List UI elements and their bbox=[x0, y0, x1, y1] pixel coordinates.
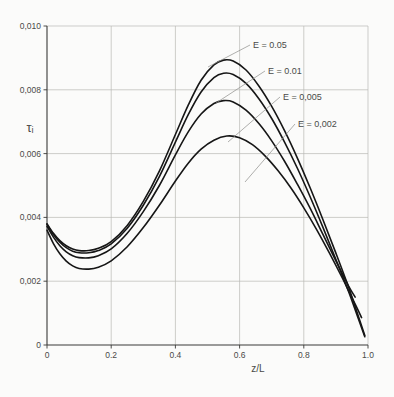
y-tick-label: 0,004 bbox=[20, 212, 42, 222]
axis-tick-labels: 00.20.40.60.81.000,0020,0040,0060,0080,0… bbox=[20, 21, 374, 360]
x-tick-label: 0.8 bbox=[298, 350, 310, 360]
figure-container: E = 0.05E = 0.01E = 0,005E = 0,002 00.20… bbox=[0, 0, 394, 397]
series-label: E = 0.05 bbox=[253, 40, 287, 50]
curve-e-0-005 bbox=[47, 101, 355, 298]
annotation-leader-line bbox=[245, 124, 295, 182]
chart-canvas: E = 0.05E = 0.01E = 0,005E = 0,002 00.20… bbox=[0, 0, 394, 397]
x-tick-label: 0.4 bbox=[169, 350, 181, 360]
plot-frame bbox=[47, 26, 368, 345]
x-tick-label: 0.2 bbox=[105, 350, 117, 360]
curve-e-0-002 bbox=[47, 136, 362, 318]
series-label: E = 0,002 bbox=[298, 119, 337, 129]
y-tick-label: 0,010 bbox=[20, 21, 42, 31]
y-tick-label: 0 bbox=[36, 340, 41, 350]
y-tick-label: 0,008 bbox=[20, 85, 42, 95]
y-axis-label: τᵢ bbox=[26, 120, 33, 135]
x-tick-label: 1.0 bbox=[362, 350, 374, 360]
x-tick-label: 0 bbox=[45, 350, 50, 360]
series-annotations: E = 0.05E = 0.01E = 0,005E = 0,002 bbox=[208, 40, 337, 182]
series-label: E = 0,005 bbox=[283, 92, 322, 102]
annotation-leader-line bbox=[208, 45, 250, 67]
grid-lines bbox=[47, 26, 368, 345]
y-tick-label: 0,006 bbox=[20, 149, 42, 159]
series-label: E = 0.01 bbox=[268, 66, 302, 76]
x-tick-label: 0.6 bbox=[234, 350, 246, 360]
y-tick-label: 0,002 bbox=[20, 276, 42, 286]
x-axis-label: z/L bbox=[251, 363, 265, 374]
